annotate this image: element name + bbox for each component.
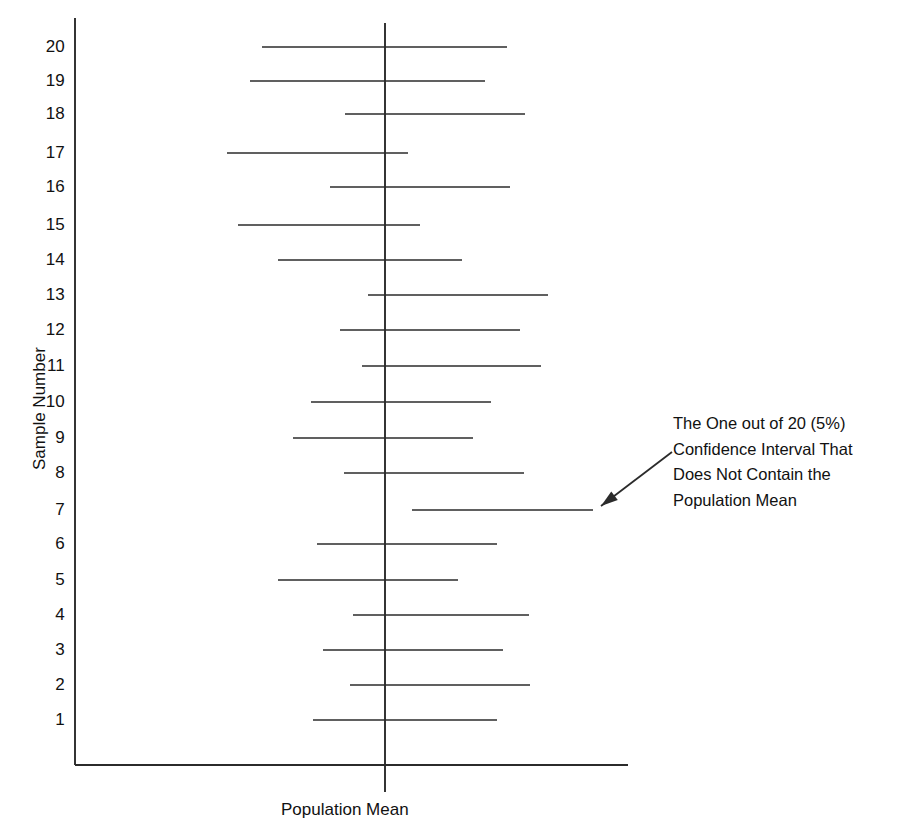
annotation-line-4: Population Mean [673, 488, 852, 514]
y-tick-label-16: 16 [25, 178, 65, 195]
y-tick-label-3: 3 [25, 641, 65, 658]
y-tick-label-18: 18 [25, 105, 65, 122]
axis-lines [75, 18, 628, 765]
y-axis-title: Sample Number [30, 347, 50, 470]
annotation-arrow-icon [601, 452, 672, 506]
confidence-interval-lines [227, 47, 593, 720]
annotation-text: The One out of 20 (5%)Confidence Interva… [673, 411, 852, 513]
y-tick-label-2: 2 [25, 676, 65, 693]
annotation-line-2: Confidence Interval That [673, 437, 852, 463]
arrow-head-icon [601, 491, 618, 506]
y-tick-label-1: 1 [25, 711, 65, 728]
y-tick-label-12: 12 [25, 321, 65, 338]
y-tick-label-15: 15 [25, 216, 65, 233]
x-axis-title: Population Mean [281, 800, 409, 820]
y-tick-label-5: 5 [25, 571, 65, 588]
y-tick-label-19: 19 [25, 72, 65, 89]
y-tick-label-4: 4 [25, 606, 65, 623]
y-tick-label-20: 20 [25, 38, 65, 55]
annotation-line-1: The One out of 20 (5%) [673, 411, 852, 437]
y-tick-label-6: 6 [25, 535, 65, 552]
confidence-interval-figure: 2019181716151413121110987654321 Sample N… [0, 0, 914, 828]
annotation-line-3: Does Not Contain the [673, 462, 852, 488]
y-tick-label-14: 14 [25, 251, 65, 268]
y-tick-label-7: 7 [25, 501, 65, 518]
y-tick-label-13: 13 [25, 286, 65, 303]
y-tick-label-17: 17 [25, 144, 65, 161]
